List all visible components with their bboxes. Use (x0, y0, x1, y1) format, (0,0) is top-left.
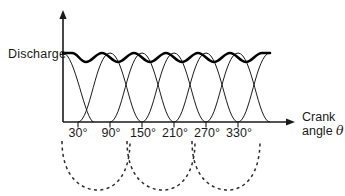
x-axis-title-line2-text: angle (302, 124, 336, 138)
tick-label-270: 270° (194, 126, 220, 140)
tick-label-90: 90° (102, 126, 121, 140)
dashed-lobes (62, 141, 260, 190)
dashed-lobe-3 (192, 141, 260, 190)
pulse-curve-6 (238, 53, 270, 122)
y-axis-arrow-icon (59, 10, 66, 19)
cylinder-pulse-curves (63, 53, 270, 122)
pulse-curve-3 (142, 53, 206, 122)
tick-label-210: 210° (162, 126, 188, 140)
tick-label-330: 330° (226, 126, 252, 140)
pulse-curve-5 (206, 53, 270, 122)
x-axis-title: Crank angle θ (302, 110, 344, 138)
pulse-curve-0 (63, 53, 94, 122)
y-axis (59, 10, 66, 122)
dashed-lobe-1 (62, 141, 130, 190)
x-axis-title-line2: angle θ (302, 124, 344, 138)
x-axis-title-line1: Crank (302, 110, 344, 124)
pulse-curve-4 (174, 53, 238, 122)
dashed-lobe-2 (127, 141, 195, 190)
tick-label-150: 150° (130, 126, 156, 140)
figure-canvas (0, 0, 345, 196)
tick-label-30: 30° (69, 126, 88, 140)
theta-symbol: θ (336, 123, 344, 138)
pulse-curve-2 (110, 53, 174, 122)
x-axis-arrow-icon (286, 118, 295, 125)
x-axis (63, 118, 295, 125)
y-axis-label: Discharge (8, 47, 66, 61)
discharge-vs-crank-angle-figure: Discharge Crank angle θ 30° 90° 150° 210… (0, 0, 345, 196)
